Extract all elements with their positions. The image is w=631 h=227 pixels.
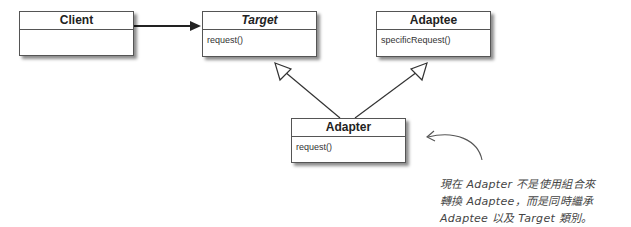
hollow-triangle-icon xyxy=(411,63,427,80)
note-line: 現在 Adapter 不是使用組合來 xyxy=(440,176,630,193)
class-method: specificRequest() xyxy=(377,30,490,50)
class-name: Target xyxy=(203,12,316,30)
annotation-arrow xyxy=(428,135,482,160)
arrowhead-icon xyxy=(190,21,201,31)
generalization-line-target xyxy=(285,72,340,118)
class-adaptee: Adaptee specificRequest() xyxy=(376,11,491,57)
class-name: Adapter xyxy=(292,119,405,137)
class-method: request() xyxy=(292,137,405,157)
class-client: Client xyxy=(19,11,134,56)
class-name: Client xyxy=(20,12,133,30)
generalization-line-adaptee xyxy=(355,72,417,118)
class-method: request() xyxy=(203,30,316,50)
annotation-note: 現在 Adapter 不是使用組合來 轉換 Adaptee，而是同時繼承 Ada… xyxy=(440,176,630,227)
class-name: Adaptee xyxy=(377,12,490,30)
note-line: 轉換 Adaptee，而是同時繼承 xyxy=(440,193,630,210)
class-adapter: Adapter request() xyxy=(291,118,406,163)
class-methods xyxy=(20,30,133,40)
class-target: Target request() xyxy=(202,11,317,57)
hollow-triangle-icon xyxy=(275,63,291,80)
note-line: Adaptee 以及 Target 類別。 xyxy=(440,210,630,227)
